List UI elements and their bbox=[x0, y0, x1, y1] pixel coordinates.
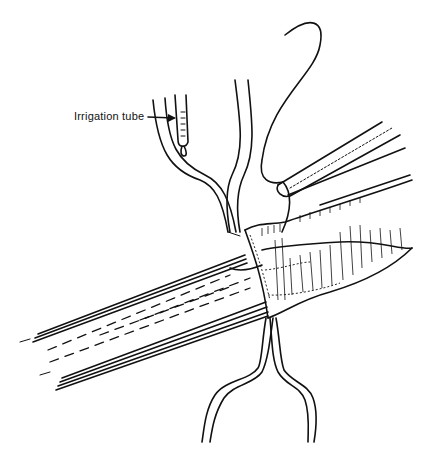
surgical-illustration bbox=[0, 0, 431, 464]
needle-holder bbox=[277, 122, 410, 205]
tissue-hatching bbox=[262, 197, 402, 300]
lower-forceps bbox=[202, 318, 316, 442]
label-arrow bbox=[148, 114, 176, 122]
vessel-lumen bbox=[20, 255, 268, 390]
irrigation-tube-label: Irrigation tube bbox=[74, 110, 144, 122]
suture-needle bbox=[261, 23, 321, 232]
vessel-right-segment bbox=[245, 180, 412, 318]
irrigation-tube bbox=[175, 95, 188, 156]
upper-forceps bbox=[153, 80, 252, 236]
